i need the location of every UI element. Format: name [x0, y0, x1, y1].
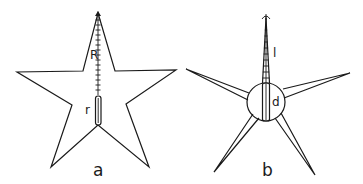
inner-radius-marker-r: [96, 96, 102, 125]
panel-b: l d b: [186, 14, 350, 180]
label-r: r: [85, 103, 90, 117]
arm-left: [186, 69, 249, 100]
diagram-canvas: R r a: [0, 0, 363, 184]
arm-bottom-right: [275, 113, 315, 175]
label-R: R: [90, 48, 98, 62]
panel-a: R r a: [17, 11, 176, 180]
caption-a: a: [93, 160, 103, 180]
disc-diameter-marker-d: [263, 83, 270, 121]
caption-b: b: [262, 160, 273, 180]
arm-right: [283, 73, 350, 98]
arm-bottom-left: [214, 114, 259, 172]
label-d: d: [272, 95, 280, 109]
top-arm-ladder-l: [262, 14, 270, 83]
apex-marker-icon: [95, 11, 101, 16]
label-l: l: [273, 46, 276, 60]
